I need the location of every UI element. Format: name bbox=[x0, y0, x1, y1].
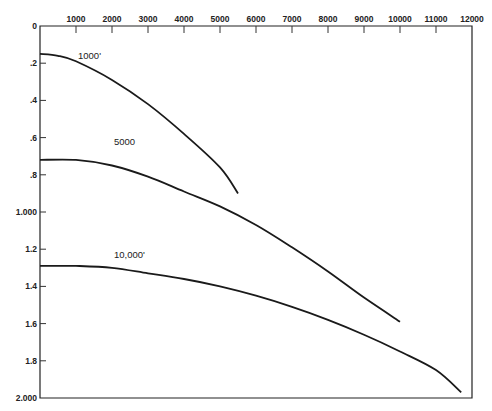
y-tick-label: 1.4 bbox=[25, 281, 37, 291]
x-tick-label: 11000 bbox=[424, 14, 447, 24]
x-tick-label: 8000 bbox=[319, 14, 338, 24]
x-tick-label: 10000 bbox=[388, 14, 412, 24]
x-tick-label: 12000 bbox=[460, 14, 484, 24]
x-tick-label: 1000 bbox=[67, 14, 86, 24]
curve-label: 5000 bbox=[114, 136, 135, 147]
curve-10000 bbox=[40, 266, 461, 393]
x-tick-label: 4000 bbox=[175, 14, 194, 24]
x-tick-label: 6000 bbox=[247, 14, 266, 24]
y-tick-label: 1.2 bbox=[25, 244, 37, 254]
x-tick-label: 2000 bbox=[103, 14, 122, 24]
curve-1000 bbox=[40, 54, 238, 194]
y-tick-label: 1.000 bbox=[16, 207, 38, 217]
x-tick-label: 5000 bbox=[211, 14, 230, 24]
origin-label: 0 bbox=[32, 21, 37, 31]
y-tick-label: 2.000 bbox=[16, 393, 38, 403]
y-tick-label: .8 bbox=[30, 170, 37, 180]
line-chart: 1000200030004000500060007000800090001000… bbox=[0, 0, 492, 411]
x-axis-ticks: 1000200030004000500060007000800090001000… bbox=[32, 14, 484, 33]
y-tick-label: 1.8 bbox=[25, 356, 37, 366]
curves bbox=[40, 54, 461, 393]
curve-label: 1000' bbox=[78, 50, 101, 61]
curve-label: 10,000' bbox=[114, 249, 145, 260]
y-tick-label: .6 bbox=[30, 133, 37, 143]
y-tick-label: .4 bbox=[30, 95, 37, 105]
y-tick-label: 1.6 bbox=[25, 319, 37, 329]
plot-frame bbox=[40, 26, 472, 398]
axis-frame bbox=[40, 26, 472, 398]
x-tick-label: 3000 bbox=[139, 14, 158, 24]
y-tick-label: .2 bbox=[30, 58, 37, 68]
curve-labels: 1000'500010,000' bbox=[78, 50, 145, 260]
x-tick-label: 9000 bbox=[355, 14, 374, 24]
curve-5000 bbox=[40, 160, 400, 322]
y-axis-ticks: .2.4.6.81.0001.21.41.61.82.000 bbox=[16, 58, 46, 403]
x-tick-label: 7000 bbox=[283, 14, 302, 24]
